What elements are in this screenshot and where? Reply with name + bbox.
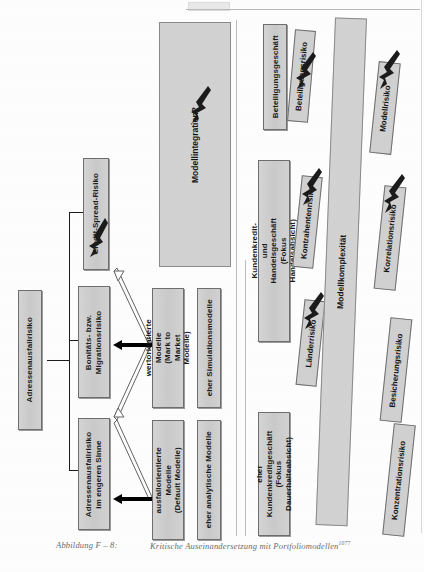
box-label: ausfallorientierte Modelle (Default Mode… <box>154 447 183 513</box>
box-label: eher analytische Modelle <box>204 431 214 528</box>
flag-marker-icon <box>374 48 402 90</box>
caption-footnote: 1077 <box>339 540 351 546</box>
box-eher-analytische-modelle: eher analytische Modelle <box>197 420 221 540</box>
box-kundenkredit-handelsgeschaeft: Kundenkredit- und Handelsgeschäft (Fokus… <box>258 160 290 342</box>
arrow-shaft <box>121 497 153 501</box>
flag-marker-icon <box>298 166 324 206</box>
flag-marker-icon <box>300 290 326 330</box>
scanned-page: Adressenausfallrisiko Credit-Spread-Risi… <box>0 0 424 572</box>
flag-marker-icon <box>379 172 407 214</box>
box-label: Kundenkredit- und Handelsgeschäft (Fokus… <box>250 218 298 284</box>
box-label: eher Simulationsmodelle <box>204 300 214 397</box>
caption-main: Kritische Auseinandersetzung mit Portfol… <box>150 541 339 551</box>
box-eher-kundenkreditgeschaeft: eher Kundenkreditgeschäft (Fokus Dauerha… <box>258 412 290 536</box>
panel-label: Modellkomplexität <box>335 235 348 309</box>
box-eher-simulationsmodelle: eher Simulationsmodelle <box>197 288 221 408</box>
arrow-to-adressenausfallrisiko-ies <box>113 494 153 504</box>
box-label: wertorientierte Modelle (Mark to Market … <box>144 319 192 376</box>
flag-marker-icon <box>292 50 318 90</box>
box-ausfallorientierte-modelle: ausfallorientierte Modelle (Default Mode… <box>152 420 184 540</box>
box-label: Beteiligungsgeschäft <box>270 36 280 119</box>
box-label: eher Kundenkreditgeschäft (Fokus Dauerha… <box>255 431 293 517</box>
divider-vertical-inner <box>245 260 246 536</box>
box-wertorientierte-modelle: wertorientierte Modelle (Mark to Market … <box>152 288 184 408</box>
caption-text: Kritische Auseinandersetzung mit Portfol… <box>150 540 350 551</box>
divider-vertical-center <box>236 20 237 536</box>
tilt-label: Konzentrationsrisiko <box>390 440 407 520</box>
panel-modellintegration: Modellintegration? <box>159 22 231 267</box>
tilt-label: Besicherungsrisiko <box>388 333 405 408</box>
flag-marker-icon <box>186 84 214 124</box>
caption-number: Abbildung F – 8: <box>56 540 118 550</box>
tilt-label: Modellrisiko <box>378 84 392 131</box>
box-beteiligungsgeschaeft: Beteiligungsgeschäft <box>263 24 287 130</box>
